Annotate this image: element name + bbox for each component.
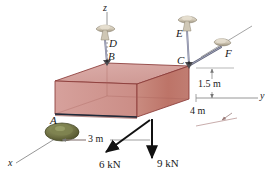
dimension-label-1p5m: 1.5 m — [198, 79, 221, 89]
force-label-6kn: 6 kN — [99, 159, 121, 170]
force-label-9kn: 9 kN — [157, 158, 179, 169]
dimension-label-4m: 4 m — [190, 106, 205, 116]
point-label-c: C — [177, 55, 184, 66]
cable-cf — [190, 47, 221, 65]
point-label-d: D — [109, 38, 117, 49]
free-body-diagram-figure: z y x D B E C F A 1.5 m 4 m 3 m 6 kN 9 k… — [0, 0, 277, 184]
axis-label-x: x — [8, 158, 12, 168]
dimension-label-3m: 3 m — [88, 134, 103, 144]
slab-body — [55, 63, 189, 119]
diagram-canvas — [0, 0, 277, 184]
point-label-b: B — [108, 51, 115, 62]
point-label-e: E — [176, 28, 183, 39]
axis-label-y: y — [260, 91, 264, 101]
point-label-f: F — [225, 48, 232, 59]
force-arrow-6kn — [106, 120, 150, 152]
slab-front-left-face — [55, 81, 137, 117]
cable-ce — [187, 30, 189, 65]
point-label-a: A — [50, 115, 57, 126]
axis-label-z: z — [103, 3, 107, 13]
anchor-f — [214, 39, 231, 46]
